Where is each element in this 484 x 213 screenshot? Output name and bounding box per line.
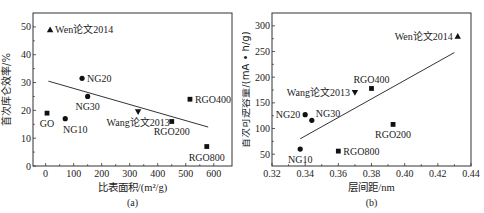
data-point-label: RGO200	[154, 126, 190, 137]
data-point-label: RGO400	[353, 74, 389, 85]
y-tick-label: 50	[260, 149, 270, 160]
data-point-label: RGO800	[343, 146, 379, 157]
data-point-label: NG30	[316, 108, 340, 119]
data-point-label: NG10	[288, 154, 312, 165]
chart-panel-a: 010020030040050060001020304050Wen论文2014G…	[0, 0, 242, 213]
chart-panel-b: 0.320.340.360.380.400.420.44501001502002…	[242, 0, 484, 213]
x-tick-label: 600	[206, 168, 221, 179]
circle-marker-icon	[63, 116, 68, 121]
data-point-label: NG30	[75, 101, 99, 112]
panel-label: (b)	[366, 197, 378, 209]
square-marker-icon	[169, 119, 174, 124]
plot-frame	[33, 13, 232, 166]
x-tick-label: 500	[178, 168, 193, 179]
triangle-up-marker-icon	[455, 33, 461, 39]
y-tick-label: 30	[21, 77, 31, 88]
x-tick-label: 100	[66, 168, 81, 179]
square-marker-icon	[45, 111, 50, 116]
x-tick-label: 0.38	[363, 168, 381, 179]
circle-marker-icon	[303, 112, 308, 117]
x-tick-label: 0.42	[429, 168, 447, 179]
y-axis-label: 首次库仑效率/%	[0, 53, 12, 126]
circle-marker-icon	[298, 146, 303, 151]
y-tick-label: 300	[255, 20, 270, 31]
y-tick-label: 250	[255, 46, 270, 57]
data-point-label: NG10	[63, 124, 87, 135]
data-point-label: Wen论文2014	[55, 23, 113, 35]
circle-marker-icon	[85, 94, 90, 99]
circle-marker-icon	[309, 118, 314, 123]
y-tick-label: 20	[21, 105, 31, 116]
y-axis-label: 首次可逆容量/(mA • h/g)	[242, 31, 251, 147]
circle-marker-icon	[79, 76, 84, 81]
x-tick-label: 0.44	[462, 168, 480, 179]
y-tick-label: 100	[255, 123, 270, 134]
x-tick-label: 300	[122, 168, 137, 179]
square-marker-icon	[204, 144, 209, 149]
x-axis-label: 层间距/nm	[348, 181, 394, 193]
data-point-label: NG20	[276, 109, 300, 120]
x-tick-label: 0.32	[263, 168, 281, 179]
square-marker-icon	[336, 149, 341, 154]
x-tick-label: 400	[150, 168, 165, 179]
data-point-label: RGO200	[375, 129, 411, 140]
square-marker-icon	[391, 122, 396, 127]
x-tick-label: 0	[43, 168, 48, 179]
square-marker-icon	[188, 97, 193, 102]
x-tick-label: 0.40	[396, 168, 414, 179]
x-tick-label: 200	[94, 168, 109, 179]
data-point-label: NG20	[87, 73, 111, 84]
data-point-label: RGO800	[189, 152, 225, 163]
triangle-down-marker-icon	[352, 90, 358, 96]
y-tick-label: 10	[21, 133, 31, 144]
y-tick-label: 40	[21, 49, 31, 60]
y-tick-label: 200	[255, 72, 270, 83]
data-point-label: Wen论文2014	[395, 30, 453, 42]
scatter-chart-a: 010020030040050060001020304050Wen论文2014G…	[0, 0, 242, 213]
data-point-label: GO	[40, 118, 54, 129]
triangle-up-marker-icon	[47, 26, 53, 32]
triangle-down-marker-icon	[135, 109, 141, 115]
x-tick-label: 0.36	[330, 168, 348, 179]
y-tick-label: 150	[255, 97, 270, 108]
x-tick-label: 0.34	[296, 168, 314, 179]
data-point-label: RGO400	[195, 94, 231, 105]
x-axis-label: 比表面积/(m²/g)	[98, 181, 168, 194]
y-tick-label: 50	[21, 21, 31, 32]
data-point-label: Wang论文2013	[287, 86, 350, 98]
y-tick-label: 0	[26, 161, 31, 172]
scatter-chart-b: 0.320.340.360.380.400.420.44501001502002…	[242, 0, 484, 213]
panel-label: (a)	[127, 197, 138, 209]
square-marker-icon	[369, 86, 374, 91]
